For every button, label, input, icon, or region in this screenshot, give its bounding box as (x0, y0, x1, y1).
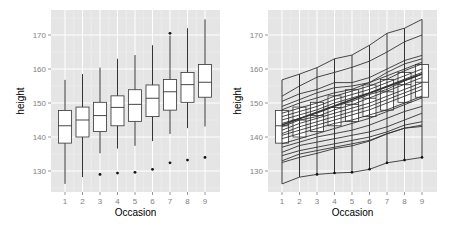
data-point (316, 173, 319, 176)
data-point (421, 156, 424, 159)
boxplot-lines-panel: 130140150160170123456789Occasionheight (232, 10, 437, 218)
box-body (94, 102, 107, 131)
data-point (351, 171, 354, 174)
x-tick-label: 6 (150, 197, 155, 206)
boxplot-panel: 130140150160170123456789Occasionheight (15, 10, 220, 218)
x-axis-title: Occasion (115, 207, 157, 218)
box-body (111, 96, 124, 126)
outlier-point (186, 159, 189, 162)
box-body (181, 72, 194, 102)
x-tick-label: 6 (367, 197, 372, 206)
x-tick-label: 5 (133, 197, 138, 206)
data-point (333, 172, 336, 175)
x-tick-label: 2 (80, 197, 85, 206)
box-body (129, 90, 142, 122)
outlier-point (169, 32, 172, 35)
y-tick-label: 160 (250, 65, 264, 74)
outlier-point (204, 156, 207, 159)
x-tick-label: 4 (332, 197, 337, 206)
x-tick-label: 3 (315, 197, 320, 206)
box-body (146, 85, 159, 117)
data-point (368, 168, 371, 171)
y-tick-label: 150 (250, 99, 264, 108)
x-tick-label: 9 (420, 197, 425, 206)
x-tick-label: 1 (280, 197, 285, 206)
figure: 130140150160170123456789Occasionheight 1… (0, 0, 459, 228)
x-tick-label: 5 (350, 197, 355, 206)
data-point (403, 159, 406, 162)
x-tick-label: 1 (63, 197, 68, 206)
x-tick-label: 8 (402, 197, 407, 206)
y-tick-label: 150 (33, 99, 47, 108)
chart-canvas: 130140150160170123456789Occasionheight 1… (0, 0, 459, 228)
data-point (386, 162, 389, 165)
y-tick-label: 160 (33, 65, 47, 74)
y-tick-label: 130 (33, 167, 47, 176)
box-body (76, 107, 89, 137)
y-tick-label: 140 (250, 133, 264, 142)
y-axis-title: height (15, 87, 26, 114)
y-tick-label: 140 (33, 133, 47, 142)
outlier-point (134, 171, 137, 174)
x-tick-label: 7 (168, 197, 173, 206)
x-tick-label: 7 (385, 197, 390, 206)
x-axis-title: Occasion (332, 207, 374, 218)
y-tick-label: 130 (250, 167, 264, 176)
x-tick-label: 4 (115, 197, 120, 206)
outlier-point (116, 172, 119, 175)
box-body (199, 65, 212, 98)
box-body (59, 110, 72, 143)
box-body (164, 80, 177, 111)
y-tick-label: 170 (250, 31, 264, 40)
x-tick-label: 2 (297, 197, 302, 206)
x-tick-label: 9 (203, 197, 208, 206)
y-axis-title: height (232, 87, 243, 114)
y-tick-label: 170 (33, 31, 47, 40)
outlier-point (151, 168, 154, 171)
outlier-point (99, 173, 102, 176)
x-tick-label: 3 (98, 197, 103, 206)
x-tick-label: 8 (185, 197, 190, 206)
outlier-point (169, 161, 172, 164)
